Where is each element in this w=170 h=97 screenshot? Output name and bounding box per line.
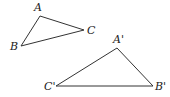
vertex-label-c: C <box>87 24 96 37</box>
triangle-prime-outline <box>56 48 153 86</box>
triangle-abc: A B C <box>9 1 96 53</box>
vertex-label-a: A <box>33 1 42 14</box>
triangles-figure: A B C A' B' C' <box>0 0 170 97</box>
vertex-label-b: B <box>9 40 18 53</box>
vertex-label-b-prime: B' <box>154 80 166 93</box>
triangle-a-prime-b-prime-c-prime: A' B' C' <box>44 33 166 93</box>
triangle-abc-outline <box>21 16 84 46</box>
vertex-label-a-prime: A' <box>112 33 124 46</box>
vertex-label-c-prime: C' <box>44 80 55 93</box>
